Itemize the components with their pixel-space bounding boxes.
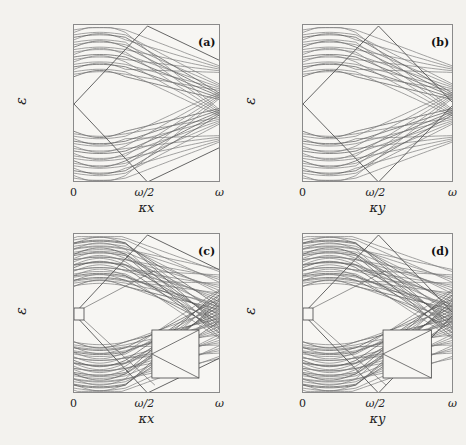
panel-label: (b) bbox=[431, 36, 449, 49]
x-tick-label: 0 bbox=[299, 397, 306, 410]
x-axis-label: κx bbox=[139, 411, 155, 426]
x-tick-label: ω/2 bbox=[366, 186, 386, 199]
x-tick-label: 0 bbox=[70, 186, 77, 199]
x-tick-label: ω bbox=[448, 397, 457, 410]
x-tick-label: ω/2 bbox=[135, 186, 155, 199]
x-axis-label: κy bbox=[370, 200, 386, 215]
panel-label: (a) bbox=[198, 36, 216, 49]
y-axis-label: ε bbox=[13, 97, 29, 105]
y-axis-label: ε bbox=[242, 97, 258, 105]
y-axis-label: ε bbox=[13, 307, 29, 315]
panel-label: (d) bbox=[431, 245, 449, 258]
x-tick-label: 0 bbox=[70, 397, 77, 410]
x-axis-label: κy bbox=[370, 411, 386, 426]
x-tick-label: ω/2 bbox=[366, 397, 386, 410]
y-axis-label: ε bbox=[242, 307, 258, 315]
x-tick-label: ω/2 bbox=[135, 397, 155, 410]
x-tick-label: ω bbox=[215, 397, 224, 410]
x-tick-label: 0 bbox=[299, 186, 306, 199]
x-tick-label: ω bbox=[448, 186, 457, 199]
x-axis-label: κx bbox=[139, 200, 155, 215]
panel-label: (c) bbox=[198, 245, 215, 258]
x-tick-label: ω bbox=[215, 186, 224, 199]
